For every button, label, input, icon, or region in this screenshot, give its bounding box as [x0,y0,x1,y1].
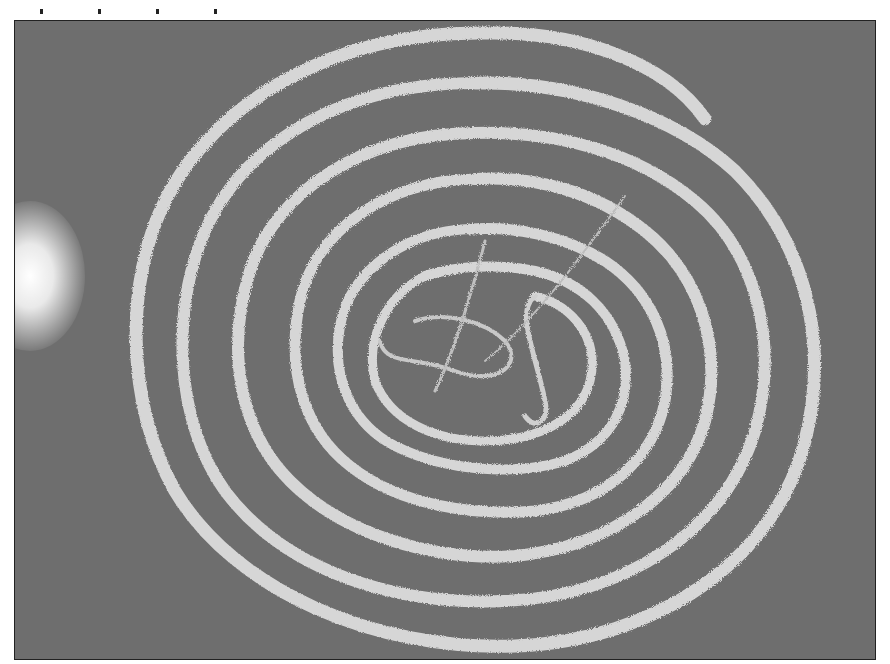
cropped-caption-text [40,0,340,6]
tapeworm-photo [14,20,876,660]
worm-spiral [15,21,876,660]
